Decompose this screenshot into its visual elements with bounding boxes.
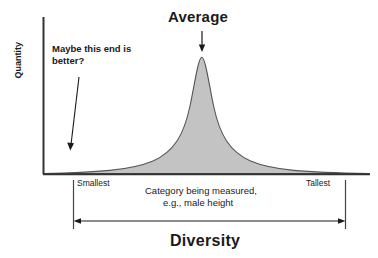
average-label: Average xyxy=(168,8,228,26)
category-label-line-1: Category being measured, xyxy=(145,185,257,196)
average-arrow xyxy=(199,31,205,52)
y-axis-label: Quantity xyxy=(13,42,24,79)
annotation-arrow xyxy=(67,77,79,151)
x-axis-right-end-label: Tallest xyxy=(306,178,330,188)
diagram-canvas xyxy=(0,0,378,258)
category-label-line-2: e.g., male height xyxy=(163,197,233,208)
diversity-dimension-arrow xyxy=(74,218,346,224)
x-axis-left-end-label: Smallest xyxy=(77,178,110,188)
annotation-line-1: Maybe this end is xyxy=(52,43,131,54)
diversity-label: Diversity xyxy=(170,232,240,251)
distribution-diagram: Average Maybe this end is better? Quanti… xyxy=(0,0,378,258)
annotation-line-2: better? xyxy=(52,55,84,66)
bell-curve-area xyxy=(44,57,369,173)
